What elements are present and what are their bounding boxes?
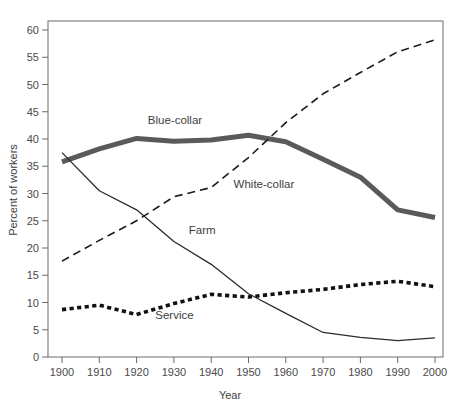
series-label-white-collar: White-collar xyxy=(234,178,295,190)
x-tick-label: 1950 xyxy=(236,366,260,378)
x-tick-label: 1900 xyxy=(50,366,74,378)
y-tick-label: 5 xyxy=(33,324,39,336)
x-tick-label: 1940 xyxy=(199,366,223,378)
occupation-trends-line-chart: 051015202530354045505560 190019101920193… xyxy=(0,0,455,420)
y-tick-label: 15 xyxy=(27,269,39,281)
series-label-blue-collar: Blue-collar xyxy=(148,114,202,126)
y-tick-label: 55 xyxy=(27,51,39,63)
x-tick-label: 2000 xyxy=(423,366,447,378)
x-tick-label: 1980 xyxy=(348,366,372,378)
y-tick-label: 60 xyxy=(27,24,39,36)
chart-container: 051015202530354045505560 190019101920193… xyxy=(0,0,455,420)
x-tick-label: 1990 xyxy=(385,366,409,378)
x-tick-label: 1910 xyxy=(87,366,111,378)
x-tick-label: 1920 xyxy=(124,366,148,378)
x-tick-label: 1960 xyxy=(274,366,298,378)
y-tick-label: 0 xyxy=(33,351,39,363)
series-label-service: Service xyxy=(155,309,193,321)
y-tick-label: 10 xyxy=(27,297,39,309)
y-tick-label: 25 xyxy=(27,215,39,227)
y-tick-label: 30 xyxy=(27,188,39,200)
x-axis-tick-labels: 1900191019201930194019501960197019801990… xyxy=(50,366,447,378)
y-tick-label: 45 xyxy=(27,106,39,118)
y-tick-label: 20 xyxy=(27,242,39,254)
x-tick-label: 1930 xyxy=(162,366,186,378)
y-tick-label: 50 xyxy=(27,79,39,91)
x-tick-label: 1970 xyxy=(311,366,335,378)
series-label-farm: Farm xyxy=(189,224,216,236)
y-axis-title: Percent of workers xyxy=(7,144,19,236)
x-axis-title: Year xyxy=(219,389,242,401)
y-tick-label: 40 xyxy=(27,133,39,145)
y-tick-label: 35 xyxy=(27,160,39,172)
